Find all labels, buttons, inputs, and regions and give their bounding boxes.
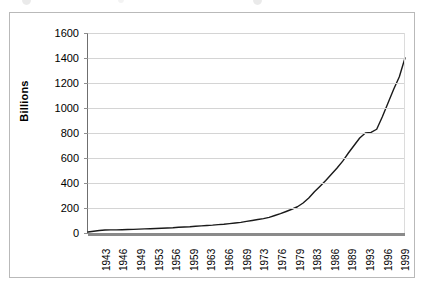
y-tick-label: 1000 xyxy=(55,102,79,114)
x-tick-label: 1993 xyxy=(365,237,376,271)
artifact-mark xyxy=(118,0,124,3)
y-tick-label: 1400 xyxy=(55,52,79,64)
y-tick-mark xyxy=(84,58,88,59)
y-tick-label: 0 xyxy=(73,227,79,239)
y-tick-label: 1600 xyxy=(55,27,79,39)
x-tick-label: 1946 xyxy=(118,237,129,271)
x-axis-tick-labels: 1943194619491953195619591963196619691973… xyxy=(88,237,405,277)
gridline xyxy=(88,83,405,84)
gridline xyxy=(88,183,405,184)
y-axis-title: Billions xyxy=(15,56,33,146)
x-tick-label: 1963 xyxy=(206,237,217,271)
y-tick-mark xyxy=(84,133,88,134)
x-tick-label: 1989 xyxy=(347,237,358,271)
y-tick-label: 600 xyxy=(61,152,79,164)
gridline xyxy=(88,58,405,59)
gridline xyxy=(88,208,405,209)
plot-area xyxy=(88,33,405,233)
x-tick-label: 1969 xyxy=(242,237,253,271)
y-tick-mark xyxy=(84,183,88,184)
x-tick-label: 1986 xyxy=(330,237,341,271)
x-tick-label: 1953 xyxy=(154,237,165,271)
x-tick-label: 1949 xyxy=(136,237,147,271)
y-tick-mark xyxy=(84,158,88,159)
y-tick-mark xyxy=(84,208,88,209)
y-tick-mark xyxy=(84,108,88,109)
gridline xyxy=(88,33,405,34)
y-tick-label: 1200 xyxy=(55,77,79,89)
y-tick-label: 400 xyxy=(61,177,79,189)
plot-right-edge xyxy=(404,33,405,234)
x-tick-label: 1973 xyxy=(259,237,270,271)
top-edge-artifact xyxy=(0,0,424,12)
x-tick-label: 1966 xyxy=(224,237,235,271)
x-tick-label: 1976 xyxy=(277,237,288,271)
artifact-mark xyxy=(22,0,31,5)
x-tick-label: 1956 xyxy=(171,237,182,271)
gridline xyxy=(88,133,405,134)
x-axis-line xyxy=(88,233,405,236)
gridline xyxy=(88,108,405,109)
y-tick-mark xyxy=(84,83,88,84)
y-tick-label: 200 xyxy=(61,202,79,214)
y-tick-mark xyxy=(84,33,88,34)
gridline xyxy=(88,158,405,159)
x-tick-label: 1959 xyxy=(189,237,200,271)
y-axis-tick-labels: 16001400120010008006004002000 xyxy=(33,27,83,239)
x-tick-label: 1999 xyxy=(400,237,411,271)
x-tick-label: 1983 xyxy=(312,237,323,271)
y-tick-label: 800 xyxy=(61,127,79,139)
x-tick-label: 1996 xyxy=(383,237,394,271)
artifact-mark xyxy=(253,0,262,5)
x-tick-label: 1943 xyxy=(101,237,112,271)
chart-container: Billions 16001400120010008006004002000 1… xyxy=(0,0,424,291)
x-tick-label: 1979 xyxy=(295,237,306,271)
